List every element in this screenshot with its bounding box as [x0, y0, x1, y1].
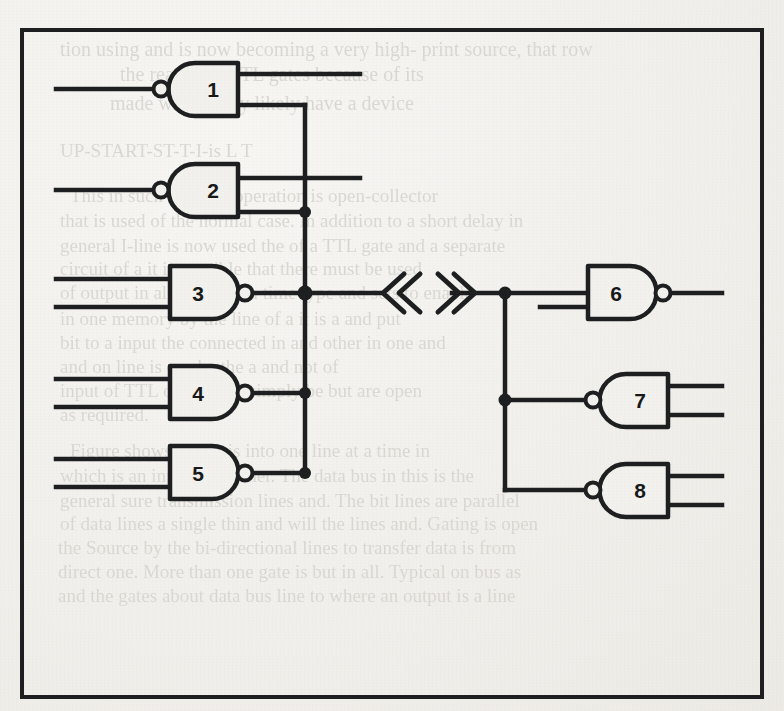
junction-dot: [299, 206, 311, 218]
gate-2-body[interactable]: [169, 164, 239, 217]
junction-dot: [299, 467, 311, 479]
gate-7-bubble-icon: [586, 393, 601, 408]
gate-3-label: 3: [192, 282, 204, 305]
gate-4-body[interactable]: [170, 366, 239, 419]
gate-bodies: [154, 63, 671, 517]
gate-5-bubble-icon: [238, 466, 253, 481]
break-chevron-right-inner: [438, 274, 459, 312]
gate-1-label: 1: [207, 78, 219, 101]
junction-dot: [499, 394, 512, 407]
junction-dot-layer: [298, 206, 512, 479]
gate-5-body[interactable]: [170, 446, 239, 499]
gate-5-label: 5: [192, 462, 204, 485]
gate-8-bubble-icon: [586, 483, 601, 498]
gate-6-body[interactable]: [588, 266, 657, 319]
junction-dot: [299, 387, 311, 399]
gate-8-label: 8: [634, 479, 646, 502]
gate-1-bubble-icon: [154, 82, 169, 97]
gate-3-bubble-icon: [238, 286, 253, 301]
gate-3-body[interactable]: [170, 266, 239, 319]
gate-6-label: 6: [610, 282, 622, 305]
logic-gate-diagram: 1 2 3 4 5 6 7 8: [0, 0, 784, 711]
bus-break-symbol: [383, 274, 475, 312]
gate-1-body[interactable]: [169, 63, 239, 116]
junction-dot: [499, 287, 512, 300]
junction-dot: [298, 286, 313, 301]
gate-7-label: 7: [634, 389, 646, 412]
gate-6-bubble-icon: [656, 286, 671, 301]
break-chevron-left-inner: [399, 274, 420, 312]
gate-label-layer: 1 2 3 4 5 6 7 8: [192, 78, 646, 502]
gate-2-bubble-icon: [154, 183, 169, 198]
gate-2-label: 2: [207, 179, 219, 202]
diagram-frame: [22, 30, 762, 697]
gate-4-label: 4: [192, 382, 204, 405]
gate-4-bubble-icon: [238, 386, 253, 401]
